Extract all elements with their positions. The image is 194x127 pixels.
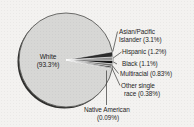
slice-label-native-american: Native American (0.09%) [84,106,130,122]
slice-label-native-american-line2: (0.09%) [97,114,119,122]
slice-label-white-line1: White [40,53,57,60]
slice-label-white-line2: (93.3%) [37,61,60,69]
slice-label-black: Black (1.1%) [122,60,158,68]
leader-line-black [113,62,117,64]
slice-label-native-american-line1: Native American [84,106,130,113]
slice-label-other-single-race: Other single race (0.38%) [121,82,160,98]
pie-chart-canvas: White (93.3%) Asian/Pacific Islander (3.… [0,0,194,127]
slice-label-white: White (93.3%) [37,53,60,69]
leader-line-multiracial [113,66,119,74]
slice-label-other-single-race-line1: Other single [121,82,155,90]
slice-label-other-single-race-line2: race (0.38%) [124,90,160,98]
pie-chart-figure: White (93.3%) Asian/Pacific Islander (3.… [0,0,194,127]
leader-line-hispanic [113,52,121,58]
slice-label-hispanic: Hispanic (1.2%) [122,48,166,56]
slice-label-multiracial: Multiracial (0.83%) [120,70,172,78]
leader-line-asian-pacific-islander [113,32,118,52]
slice-label-asian-pacific-islander-line2: Islander (3.1%) [119,36,162,44]
slice-label-asian-pacific-islander-line1: Asian/Pacific [119,28,156,35]
slice-label-asian-pacific-islander: Asian/Pacific Islander (3.1%) [119,28,162,44]
